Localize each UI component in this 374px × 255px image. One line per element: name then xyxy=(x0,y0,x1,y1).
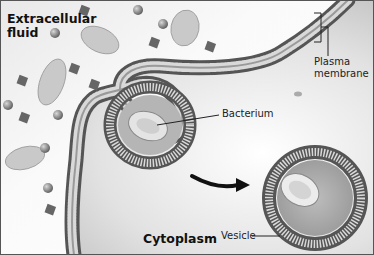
extracellular-label-line1: Extracellular xyxy=(7,12,96,26)
cytoplasm-label: Cytoplasm xyxy=(143,232,217,246)
vesicle-label: Vesicle xyxy=(221,230,256,242)
extracellular-label-line2: fluid xyxy=(7,26,96,40)
plasma-membrane-label-line2: membrane xyxy=(314,68,369,80)
phagocytosis-figure: Extracellular fluid Plasma membrane Bact… xyxy=(0,0,374,255)
bacterium-label: Bacterium xyxy=(222,108,274,120)
plasma-membrane-label-line1: Plasma xyxy=(314,56,369,68)
vesicle xyxy=(269,152,361,244)
plasma-membrane-label: Plasma membrane xyxy=(314,56,369,80)
extracellular-fluid-label: Extracellular fluid xyxy=(7,12,96,40)
